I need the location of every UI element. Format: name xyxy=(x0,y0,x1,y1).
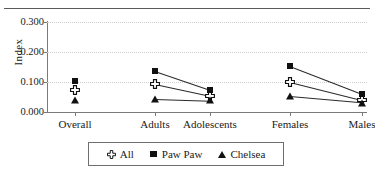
data-point-square xyxy=(72,78,78,84)
document-rule xyxy=(4,8,370,9)
x-tick-label: Adults xyxy=(140,118,169,130)
y-tick-label: 0.100 xyxy=(2,77,44,87)
x-axis-line xyxy=(47,112,367,113)
y-tick-mark xyxy=(43,112,47,113)
cross-outline-icon xyxy=(107,150,116,159)
x-tick-label: Females xyxy=(272,118,309,130)
plot-area xyxy=(47,22,367,112)
data-point-square xyxy=(152,68,158,74)
legend-label-all: All xyxy=(120,148,134,160)
x-tick-label: Adolescents xyxy=(183,118,237,130)
data-point-cross xyxy=(285,77,295,87)
data-point-triangle xyxy=(151,95,159,102)
series-segment xyxy=(155,99,210,102)
x-tick-label: Males xyxy=(349,118,375,130)
legend-label-chelsea: Chelsea xyxy=(230,148,265,160)
x-tick-mark xyxy=(210,112,211,116)
data-point-square xyxy=(287,63,293,69)
legend-item-all[interactable]: All xyxy=(107,148,134,160)
triangle-filled-icon xyxy=(217,150,226,159)
legend-item-chelsea[interactable]: Chelsea xyxy=(217,148,265,160)
square-filled-icon xyxy=(149,150,158,159)
data-point-cross xyxy=(70,85,80,95)
data-point-triangle xyxy=(286,93,294,100)
series-segment xyxy=(155,71,210,91)
x-tick-mark xyxy=(75,112,76,116)
x-tick-mark xyxy=(362,112,363,116)
legend-label-paw-paw: Paw Paw xyxy=(162,148,203,160)
series-segment xyxy=(155,84,210,97)
x-tick-mark xyxy=(155,112,156,116)
data-point-triangle xyxy=(358,99,366,106)
legend-item-paw-paw[interactable]: Paw Paw xyxy=(149,148,203,160)
y-tick-label: 0.300 xyxy=(2,17,44,27)
x-tick-mark xyxy=(290,112,291,116)
data-point-square xyxy=(359,91,365,97)
data-point-cross xyxy=(150,79,160,89)
data-point-square xyxy=(207,87,213,93)
x-tick-label: Overall xyxy=(59,118,92,130)
y-tick-label: 0.000 xyxy=(2,107,44,117)
data-point-triangle xyxy=(206,97,214,104)
y-tick-label: 0.200 xyxy=(2,47,44,57)
data-point-triangle xyxy=(71,97,79,104)
series-segment xyxy=(290,82,362,101)
chart-legend: All Paw Paw Chelsea xyxy=(88,142,284,166)
